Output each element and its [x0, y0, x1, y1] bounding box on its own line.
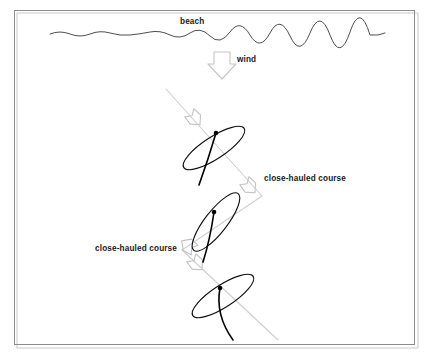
sailboat-bottom-hull: [187, 267, 259, 325]
sailboat-middle-mast: [212, 210, 217, 215]
course-arrowhead-2: [239, 176, 260, 197]
close-hauled-course-line: [166, 89, 278, 340]
diagram-canvas: beach wind close-hauled course close-hau…: [0, 0, 432, 362]
sailboat-top-hull: [178, 119, 250, 177]
sailboat-middle: [185, 187, 247, 262]
diagram-border-shadow: [17, 13, 418, 348]
wind-direction-arrow: [208, 52, 236, 79]
wind-label: wind: [236, 55, 256, 64]
course-arrowhead-1: [184, 108, 205, 129]
sailboat-bottom: [187, 267, 259, 340]
sailboat-bottom-mast: [218, 286, 223, 291]
sailboat-top-mast: [214, 131, 219, 136]
sailboat-top-sail: [199, 133, 216, 185]
course-segment-3: [182, 250, 278, 340]
close-hauled-course-label-right: close-hauled course: [264, 174, 346, 183]
sailboat-group: [178, 119, 259, 340]
sailing-tacking-diagram: beach wind close-hauled course close-hau…: [0, 0, 432, 362]
beach-label: beach: [180, 17, 204, 26]
sailboat-top: [178, 119, 250, 185]
beach-shoreline: [50, 18, 385, 48]
close-hauled-course-label-left: close-hauled course: [95, 244, 177, 253]
